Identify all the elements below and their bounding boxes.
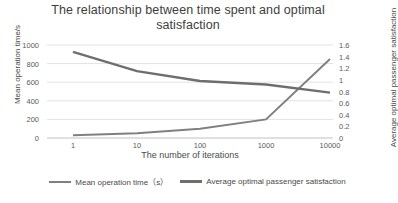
series-lines — [73, 52, 330, 135]
gridlines — [47, 45, 333, 138]
chart-legend: Mean operation time（s） Average optimal p… — [0, 176, 395, 187]
legend-label: Mean operation time（s） — [75, 176, 168, 187]
legend-label: Average optimal passenger satisfaction — [206, 177, 346, 186]
series-line — [73, 52, 330, 93]
legend-swatch-icon — [180, 180, 202, 183]
legend-swatch-icon — [49, 181, 71, 183]
legend-item-average-satisfaction: Average optimal passenger satisfaction — [180, 177, 346, 186]
series-line — [73, 59, 330, 135]
legend-item-mean-operation-time: Mean operation time（s） — [49, 176, 168, 187]
